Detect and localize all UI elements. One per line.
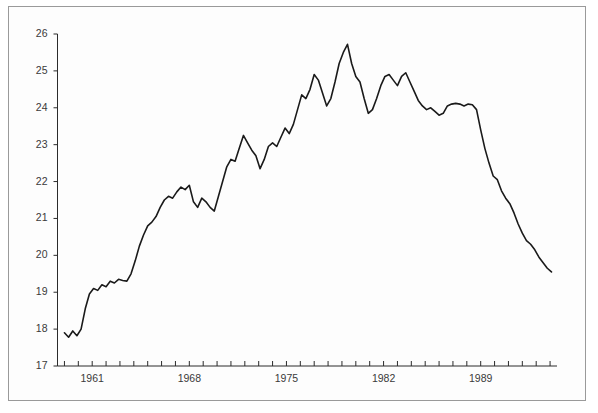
x-tick-label: 1968 (169, 372, 209, 384)
figure-title-fragment (8, 0, 568, 2)
x-tick-label: 1989 (461, 372, 501, 384)
y-tick-label: 21 (22, 211, 48, 223)
x-tick-label: 1975 (266, 372, 306, 384)
y-tick-label: 17 (22, 359, 48, 371)
figure-frame-border (8, 6, 586, 401)
y-tick-label: 24 (22, 101, 48, 113)
y-tick-label: 25 (22, 64, 48, 76)
y-tick-label: 20 (22, 248, 48, 260)
y-tick-label: 23 (22, 138, 48, 150)
x-tick-label: 1982 (364, 372, 404, 384)
figure-container: 17181920212223242526 1961196819751982198… (0, 0, 598, 413)
y-tick-label: 18 (22, 322, 48, 334)
y-tick-label: 19 (22, 285, 48, 297)
y-tick-label: 22 (22, 175, 48, 187)
x-tick-label: 1961 (72, 372, 112, 384)
y-tick-label: 26 (22, 27, 48, 39)
